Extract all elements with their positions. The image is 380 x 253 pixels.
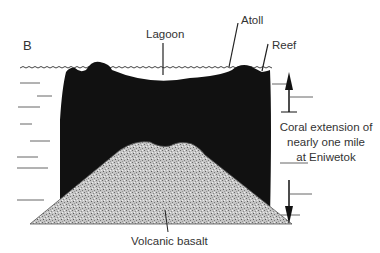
water-surface-line (20, 67, 272, 69)
annotation-line-1: Coral extension of (270, 120, 380, 135)
lagoon-label: Lagoon (146, 29, 184, 41)
volcanic-basalt-label: Volcanic basalt (131, 236, 208, 248)
reef-label: Reef (272, 40, 296, 52)
atoll-leader-line (229, 23, 238, 67)
coral-extension-annotation: Coral extension of nearly one mile at En… (270, 120, 380, 165)
annotation-line-2: nearly one mile (270, 135, 380, 150)
atoll-label: Atoll (241, 15, 263, 27)
panel-label: B (23, 39, 32, 52)
water-depth-lines-left (17, 83, 52, 200)
annotation-line-3: at Eniwetok (270, 150, 380, 165)
atoll-cross-section-diagram: B Lagoon Atoll Reef Volcanic basalt Cora… (0, 0, 380, 253)
